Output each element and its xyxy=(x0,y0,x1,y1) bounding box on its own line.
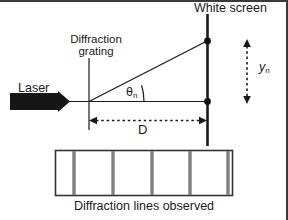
white-screen-label: White screen xyxy=(194,2,267,15)
figure-canvas xyxy=(0,0,288,220)
diffraction-grating-label: Diffraction grating xyxy=(61,33,131,57)
theta-symbol: θ xyxy=(126,85,133,99)
diffraction-grating-figure: White screen Diffraction grating Laser θ… xyxy=(0,0,288,220)
yn-distance-label: yn xyxy=(259,61,270,74)
figure-caption: Diffraction lines observed xyxy=(0,200,288,213)
laser-label: Laser xyxy=(18,82,49,95)
theta-subscript: n xyxy=(133,91,137,100)
diffraction-grating-label-line2: grating xyxy=(78,45,113,57)
y-subscript: n xyxy=(265,66,269,75)
diffraction-grating-label-line1: Diffraction xyxy=(70,33,122,45)
central-spot-dot xyxy=(204,98,211,105)
d-distance-label: D xyxy=(138,123,147,137)
distance-dimension-arrow xyxy=(89,117,207,124)
diffraction-panel xyxy=(56,151,233,196)
yn-dimension-arrow xyxy=(243,39,251,104)
angle-arc-icon xyxy=(142,85,144,101)
first-order-spot-dot xyxy=(204,38,211,45)
theta-angle-label: θn xyxy=(126,86,137,99)
